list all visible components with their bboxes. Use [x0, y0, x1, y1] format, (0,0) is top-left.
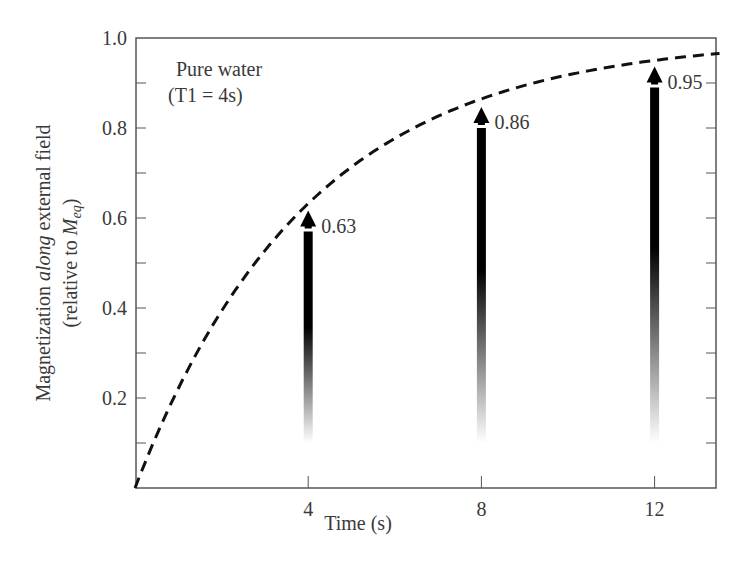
y-axis-title: Magnetization along external field (rela…: [32, 124, 84, 401]
annotation-line2: (T1 = 4s): [168, 84, 243, 107]
x-tick-label: 4: [303, 498, 313, 520]
annotation-line1: Pure water: [176, 58, 262, 80]
relaxation-chart: 0.20.40.60.81.0 4812 0.630.860.95 Pure w…: [0, 0, 746, 565]
arrow-value-label: 0.95: [668, 71, 703, 93]
y-tick-label: 0.6: [102, 207, 127, 229]
y-tick-label: 1.0: [102, 27, 127, 49]
recovery-curve: [135, 53, 720, 488]
x-tick-label: 8: [476, 498, 486, 520]
y-tick-label: 0.2: [102, 387, 127, 409]
svg-text:Magnetization along external f: Magnetization along external field: [32, 124, 55, 401]
y-tick-label: 0.8: [102, 117, 127, 139]
arrow-value-label: 0.63: [321, 215, 356, 237]
x-tick-label: 12: [645, 498, 665, 520]
arrow-0.95: 0.95: [647, 67, 703, 444]
arrow-0.86: 0.86: [473, 107, 529, 443]
arrow-0.63: 0.63: [300, 211, 356, 444]
magnetization-arrows: 0.630.860.95: [300, 67, 702, 444]
y-tick-label: 0.4: [102, 297, 127, 319]
arrow-value-label: 0.86: [494, 111, 529, 133]
svg-text:(relative to Meq): (relative to Meq): [59, 199, 84, 328]
x-axis-title: Time (s): [324, 512, 392, 535]
